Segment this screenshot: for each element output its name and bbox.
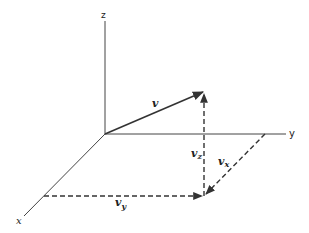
vector-v-label: v: [152, 97, 159, 110]
vy-label: vy: [115, 196, 127, 211]
y-axis-label: y: [289, 128, 295, 139]
x-axis: [24, 134, 105, 216]
vz-label: vz: [191, 147, 202, 161]
vx-label: vx: [218, 155, 229, 169]
z-axis-label: z: [101, 10, 106, 20]
x-axis-label: x: [16, 215, 22, 226]
component-vx: [206, 134, 265, 194]
vector-diagram: z y x v vz vx vy: [0, 0, 309, 233]
